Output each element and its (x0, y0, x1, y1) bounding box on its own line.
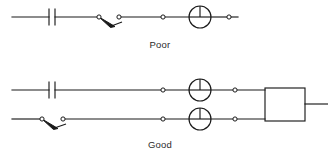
terminal-dot (61, 117, 65, 121)
meter-symbol (189, 79, 211, 101)
terminal-dot (161, 88, 165, 92)
capacitor-symbol (49, 82, 55, 99)
circuit-poor: Poor (12, 6, 238, 50)
circuit-canvas: Poor (0, 0, 328, 157)
circuit-diagram-figure: Poor (0, 0, 328, 157)
terminal-dot (40, 117, 44, 121)
terminal-dot (227, 15, 231, 19)
instrument-box-symbol (265, 88, 328, 121)
instrument-box-body (265, 88, 305, 121)
terminal-dot (161, 117, 165, 121)
capacitor-symbol (49, 9, 55, 26)
meter-symbol (189, 108, 211, 130)
terminal-dot (97, 15, 101, 19)
meter-symbol (189, 6, 211, 28)
terminal-dot (161, 15, 165, 19)
terminal-dot (117, 15, 121, 19)
caption-poor: Poor (150, 39, 171, 50)
terminal-dot (233, 88, 237, 92)
caption-good: Good (148, 139, 172, 150)
circuit-good: Good (12, 79, 328, 150)
terminal-dot (233, 117, 237, 121)
